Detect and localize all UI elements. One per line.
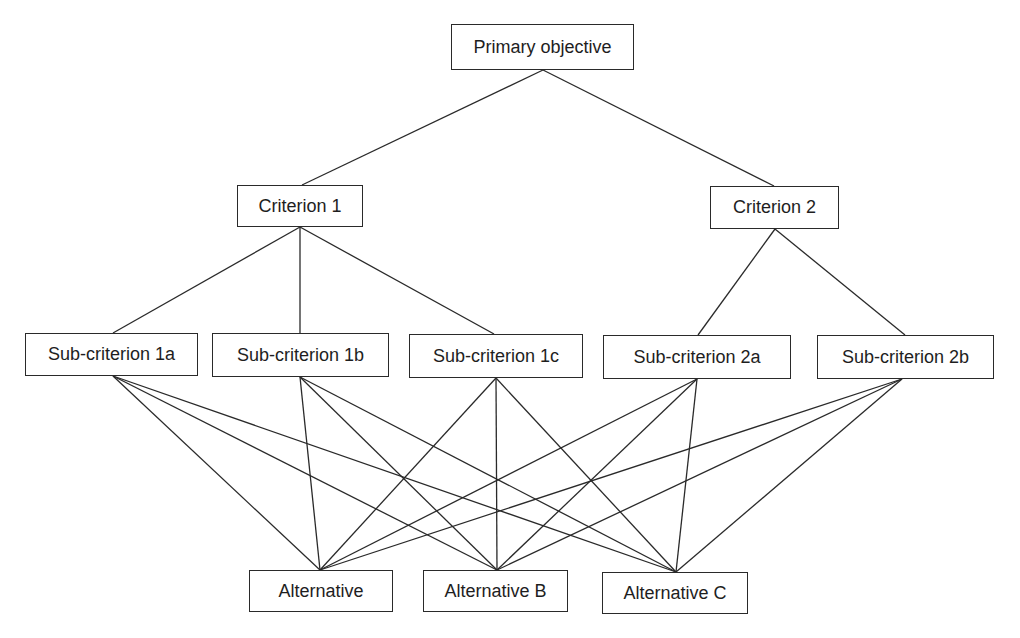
goal-node-goal: Primary objective bbox=[451, 24, 634, 70]
sub-criterion-node-s1b: Sub-criterion 1b bbox=[212, 333, 389, 377]
criterion-node-c2: Criterion 2 bbox=[710, 186, 839, 229]
node-label: Sub-criterion 1b bbox=[237, 345, 364, 366]
connector-lines bbox=[0, 0, 1020, 638]
edge-s1c-to-altB bbox=[496, 378, 497, 570]
edge-s1b-to-altA bbox=[300, 377, 320, 570]
alternative-node-altC: Alternative C bbox=[602, 572, 748, 614]
edge-s1c-to-altC bbox=[496, 378, 676, 572]
edge-c2-to-s2a bbox=[698, 229, 775, 335]
edge-goal-to-c1 bbox=[302, 70, 543, 185]
sub-criterion-node-s2b: Sub-criterion 2b bbox=[817, 335, 994, 379]
sub-criterion-node-s1c: Sub-criterion 1c bbox=[409, 334, 583, 378]
node-label: Alternative B bbox=[444, 581, 546, 602]
sub-criterion-node-s1a: Sub-criterion 1a bbox=[25, 333, 198, 376]
edge-c2-to-s2b bbox=[775, 229, 905, 335]
node-label: Criterion 2 bbox=[733, 197, 816, 218]
node-label: Sub-criterion 2a bbox=[633, 347, 760, 368]
node-label: Criterion 1 bbox=[258, 196, 341, 217]
edge-s2a-to-altC bbox=[676, 379, 697, 572]
edge-s1a-to-altC bbox=[113, 376, 676, 572]
sub-criterion-node-s2a: Sub-criterion 2a bbox=[603, 335, 791, 379]
edge-s2a-to-altB bbox=[497, 379, 697, 570]
criterion-node-c1: Criterion 1 bbox=[237, 185, 363, 227]
edge-goal-to-c2 bbox=[543, 70, 774, 186]
node-label: Sub-criterion 1c bbox=[433, 346, 559, 367]
edge-s2b-to-altB bbox=[497, 379, 902, 570]
node-label: Alternative C bbox=[623, 583, 726, 604]
edge-s2a-to-altA bbox=[320, 379, 697, 570]
node-label: Sub-criterion 1a bbox=[48, 344, 175, 365]
edge-c1-to-s1c bbox=[300, 227, 494, 334]
alternative-node-altB: Alternative B bbox=[423, 570, 568, 612]
edge-s1b-to-altB bbox=[300, 377, 497, 570]
edge-s1b-to-altC bbox=[300, 377, 676, 572]
node-label: Alternative bbox=[278, 581, 363, 602]
edge-c1-to-s1a bbox=[113, 227, 300, 333]
alternative-node-altA: Alternative bbox=[249, 570, 393, 612]
node-label: Primary objective bbox=[473, 37, 611, 58]
node-label: Sub-criterion 2b bbox=[842, 347, 969, 368]
hierarchy-diagram: Primary objectiveCriterion 1Criterion 2S… bbox=[0, 0, 1020, 638]
edge-s2b-to-altC bbox=[676, 379, 902, 572]
edge-s1a-to-altB bbox=[113, 376, 497, 570]
edge-s1a-to-altA bbox=[113, 376, 320, 570]
